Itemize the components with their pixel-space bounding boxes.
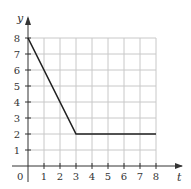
x-axis-label: t	[177, 171, 182, 184]
x-tick-label: 3	[73, 171, 79, 182]
y-axis-arrow-icon	[25, 16, 31, 25]
y-tick-label: 3	[14, 113, 20, 124]
chart: 1234567812345678 y t 0	[0, 0, 191, 189]
x-tick-label: 8	[153, 171, 159, 182]
x-tick-label: 1	[41, 171, 47, 182]
y-tick-label: 1	[14, 145, 20, 156]
y-axis-label: y	[16, 12, 24, 25]
y-tick-label: 2	[14, 129, 20, 140]
x-tick-label: 7	[137, 171, 143, 182]
x-tick-label: 4	[89, 171, 95, 182]
y-tick-label: 7	[14, 49, 20, 60]
x-axis-arrow-icon	[175, 163, 183, 169]
y-tick-label: 5	[14, 81, 20, 92]
grid	[28, 38, 156, 166]
y-tick-label: 4	[14, 97, 20, 108]
tick-labels: 1234567812345678	[14, 33, 160, 183]
y-tick-label: 6	[14, 65, 20, 76]
axes	[12, 16, 183, 182]
origin-label: 0	[17, 171, 23, 182]
y-tick-label: 8	[14, 33, 20, 44]
ticks	[25, 38, 156, 169]
x-tick-label: 2	[57, 171, 63, 182]
x-tick-label: 6	[121, 171, 127, 182]
x-tick-label: 5	[105, 171, 111, 182]
